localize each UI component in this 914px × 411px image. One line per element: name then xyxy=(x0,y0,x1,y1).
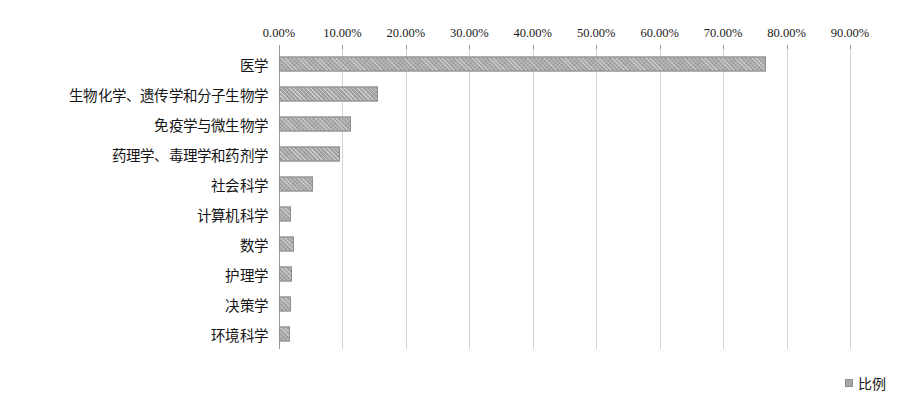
y-tick-label: 免疫学与微生物学 xyxy=(154,114,268,135)
x-tick-label: 0.00% xyxy=(263,24,295,42)
legend-swatch-icon xyxy=(845,379,853,387)
bar xyxy=(279,117,351,132)
y-tick-label: 医学 xyxy=(240,54,268,75)
gridline xyxy=(723,49,724,349)
x-tick-label: 20.00% xyxy=(387,24,426,42)
bar xyxy=(279,237,294,252)
gridline xyxy=(787,49,788,349)
x-tick-label: 10.00% xyxy=(323,24,362,42)
y-tick-label: 生物化学、遗传学和分子生物学 xyxy=(69,84,268,105)
y-tick-label: 社会科学 xyxy=(211,174,268,195)
y-tick-label: 环境科学 xyxy=(211,324,268,345)
plot-area xyxy=(279,49,850,349)
bar xyxy=(279,147,340,162)
y-axis-category-labels: 医学生物化学、遗传学和分子生物学免疫学与微生物学药理学、毒理学和药剂学社会科学计… xyxy=(0,49,274,349)
bar xyxy=(279,267,292,282)
x-axis-tick-labels: 0.00%10.00%20.00%30.00%40.00%50.00%60.00… xyxy=(0,24,914,42)
x-tick-label: 60.00% xyxy=(640,24,679,42)
y-tick-label: 药理学、毒理学和药剂学 xyxy=(112,144,268,165)
y-tick-label: 数学 xyxy=(240,234,268,255)
x-tick-label: 30.00% xyxy=(450,24,489,42)
bar xyxy=(279,327,290,342)
gridline xyxy=(596,49,597,349)
legend-label: 比例 xyxy=(858,373,886,393)
gridline xyxy=(469,49,470,349)
bar xyxy=(279,297,291,312)
gridline xyxy=(660,49,661,349)
bar xyxy=(279,57,766,72)
bar xyxy=(279,87,378,102)
gridline xyxy=(533,49,534,349)
y-tick-label: 决策学 xyxy=(225,294,268,315)
y-tick-label: 计算机科学 xyxy=(197,204,268,225)
gridline xyxy=(406,49,407,349)
bar xyxy=(279,207,291,222)
x-tick-label: 80.00% xyxy=(767,24,806,42)
chart-legend: 比例 xyxy=(845,373,886,393)
bar-chart: 0.00%10.00%20.00%30.00%40.00%50.00%60.00… xyxy=(0,0,914,411)
bar xyxy=(279,177,313,192)
x-tick-label: 50.00% xyxy=(577,24,616,42)
x-tick-label: 70.00% xyxy=(704,24,743,42)
gridline xyxy=(850,49,851,349)
x-tick-label: 40.00% xyxy=(513,24,552,42)
x-tick-label: 90.00% xyxy=(831,24,870,42)
y-tick-label: 护理学 xyxy=(225,264,268,285)
